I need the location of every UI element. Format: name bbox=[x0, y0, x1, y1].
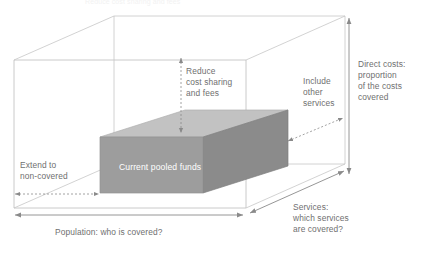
population-axis-label: Population: who is covered? bbox=[55, 227, 162, 238]
direct-costs-label-line-3: of the costs bbox=[358, 81, 402, 92]
direct-costs-label-line-4: covered bbox=[358, 92, 389, 103]
services-axis-label-line-3: are covered? bbox=[293, 224, 343, 235]
direct-costs-label-line-1: Direct costs: bbox=[358, 59, 405, 70]
cube-diagram-svg bbox=[0, 0, 430, 253]
reduce-cost-sharing-label-line-3: and fees bbox=[186, 88, 219, 99]
include-other-services-arrow bbox=[288, 118, 343, 141]
current-pooled-funds-label: Current pooled funds bbox=[119, 162, 201, 173]
services-axis-label-line-2: which services bbox=[293, 213, 349, 224]
reduce-cost-sharing-label-line-2: cost sharing bbox=[186, 77, 232, 88]
services-axis-label-line-1: Services: bbox=[293, 202, 328, 213]
cropped-caption-top: Reduce cost sharing and fees bbox=[85, 0, 335, 8]
include-other-services-label-line-3: services bbox=[303, 98, 335, 109]
include-other-services-label-line-1: Include bbox=[303, 76, 331, 87]
extend-to-non-covered-label-line-1: Extend to bbox=[20, 160, 56, 171]
extend-to-non-covered-label-line-2: non-covered bbox=[20, 171, 68, 182]
direct-costs-label-line-2: proportion bbox=[358, 70, 397, 81]
coverage-cube-figure: Reduce cost sharing and fees Reduce cost… bbox=[0, 0, 430, 253]
include-other-services-label-line-2: other bbox=[303, 87, 323, 98]
reduce-cost-sharing-label-line-1: Reduce bbox=[186, 66, 215, 77]
